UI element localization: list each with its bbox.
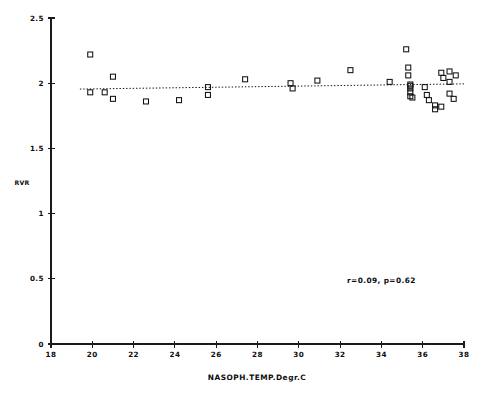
- y-tick-label: 1: [39, 209, 44, 218]
- x-tick-label: 24: [169, 350, 180, 359]
- x-tick-label: 20: [87, 350, 98, 359]
- x-tick-label: 22: [128, 350, 139, 359]
- y-tick-label: 2: [39, 79, 44, 88]
- x-tick-label: 26: [211, 350, 222, 359]
- x-tick-label: 34: [376, 350, 387, 359]
- y-axis-title: RVR: [15, 179, 30, 186]
- annotations-group: r=0.09, p=0.62: [347, 276, 416, 285]
- chart-canvas: 00.511.522.5 1820222426283032343638 r=0.…: [0, 0, 485, 396]
- scatter-plot-figure: 00.511.522.5 1820222426283032343638 r=0.…: [0, 0, 485, 396]
- x-tick-label: 30: [293, 350, 304, 359]
- y-tick-label: 2.5: [30, 14, 44, 23]
- y-tick-label: 0.5: [30, 274, 44, 283]
- x-tick-label: 28: [252, 350, 263, 359]
- y-tick-label: 1.5: [30, 144, 44, 153]
- x-tick-label: 38: [459, 350, 470, 359]
- y-tick-label: 0: [39, 340, 44, 349]
- correlation-annotation: r=0.09, p=0.62: [347, 276, 416, 285]
- x-tick-label: 36: [417, 350, 428, 359]
- chart-background: [0, 0, 485, 396]
- x-tick-label: 32: [335, 350, 346, 359]
- x-axis-title: NASOPH.TEMP.Degr.C: [208, 373, 307, 382]
- x-tick-label: 18: [46, 350, 57, 359]
